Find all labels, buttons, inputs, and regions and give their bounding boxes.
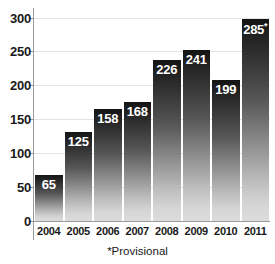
bar-value-label: 125 [65,135,93,148]
bar-value-label: 65 [35,178,63,191]
bar-slot: 65 [34,8,64,221]
bar-slot: 125 [64,8,94,221]
bar[interactable]: 158 [94,109,122,221]
bar-slot: 226 [152,8,182,221]
y-axis-tick-label: 200 [0,79,31,92]
bar-value-text: 285 [243,22,264,37]
bar-slot: 168 [123,8,153,221]
bar-value-label-with-footnote-marker: 285* [242,22,270,36]
x-axis-tick-label: 2010 [211,224,241,238]
x-axis-line [33,221,270,222]
bar[interactable]: 125 [65,132,93,221]
y-axis-tick-label: 100 [0,147,31,160]
bar-value-label: 168 [124,105,152,118]
chart-footnote: *Provisional [0,244,275,258]
y-axis-tick-label: 150 [0,113,31,126]
bar[interactable]: 241 [183,50,211,221]
x-axis-tick-label: 2009 [182,224,212,238]
bar-slot: 199 [211,8,241,221]
bar[interactable]: 285* [242,19,270,222]
bar-value-label: 158 [94,112,122,125]
y-axis-tick-label: 300 [0,12,31,25]
bar-value-label: 199 [212,83,240,96]
bar-slot: 241 [182,8,212,221]
bar[interactable]: 168 [124,102,152,221]
x-axis-tick-label: 2006 [93,224,123,238]
x-axis-tick-label: 2011 [241,224,271,238]
bar[interactable]: 65 [35,175,63,221]
x-axis-tick-label: 2007 [123,224,153,238]
bar-chart: 300 250 200 150 100 50 0 65 125 158 168 [0,0,275,264]
bar-value-label: 226 [153,63,181,76]
x-axis-tick-label: 2008 [152,224,182,238]
bar-slot: 158 [93,8,123,221]
bar[interactable]: 199 [212,80,240,221]
y-axis-tick-label: 0 [0,215,31,228]
x-axis-tick-label: 2004 [34,224,64,238]
asterisk-marker: * [264,21,267,31]
y-axis-tick-label: 250 [0,45,31,58]
bar-value-label: 241 [183,53,211,66]
x-axis-tick-label: 2005 [64,224,94,238]
y-axis-tick-label: 50 [0,181,31,194]
bar[interactable]: 226 [153,60,181,221]
bar-slot: 285* [241,8,271,221]
x-axis-labels: 2004 2005 2006 2007 2008 2009 2010 2011 [34,224,270,240]
bars-area: 65 125 158 168 226 241 [34,8,270,221]
